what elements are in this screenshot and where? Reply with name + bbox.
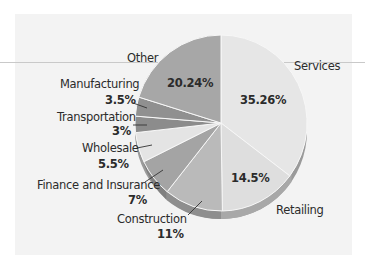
construction-label: Construction [117,212,187,226]
transportation-percent: 3% [112,124,132,138]
other-percent: 20.24% [167,76,214,90]
wholesale-label: Wholesale [82,141,139,155]
construction-percent: 11% [157,227,184,241]
transportation-label: Transportation [56,110,136,124]
pie-chart: 20.24% 35.26% 14.5% Other Services Retai… [0,0,365,266]
wholesale-percent: 5.5% [98,157,129,171]
other-label: Other [127,51,159,65]
services-percent: 35.26% [240,93,287,107]
finance-percent: 7% [128,193,148,207]
manufacturing-label: Manufacturing [60,77,139,91]
retailing-label: Retailing [276,203,324,217]
manufacturing-percent: 3.5% [105,93,136,107]
services-label: Services [294,59,340,73]
retailing-percent: 14.5% [231,171,270,185]
finance-label: Finance and Insurance [37,178,160,192]
pie-slices [135,35,307,211]
